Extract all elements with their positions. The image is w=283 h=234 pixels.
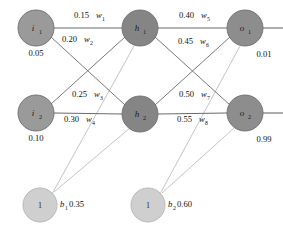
node-o1-label: o [240,23,245,33]
bias-b2-subscript: 2 [173,205,176,211]
node-h2-subscript: 2 [143,114,146,121]
node-o2[interactable] [227,95,263,131]
weight-w8-subscript: 8 [205,120,208,126]
weight-w5-value: 0.40 [179,10,194,20]
node-o1-subscript: 1 [248,28,251,35]
output-tails [263,28,283,113]
node-i2[interactable] [18,95,54,131]
weight-w5-subscript: 5 [207,16,210,22]
bias-b1-value: 0.35 [69,199,84,209]
weight-w2-subscript: 2 [90,40,93,46]
weight-w2-value: 0.20 [62,34,77,44]
bias-b1-subscript: 1 [65,205,68,211]
node-h1-label: h [135,23,140,33]
bias-b2-value: 0.60 [177,199,192,209]
node-i2-value: 0.10 [28,133,43,143]
weight-w1-value: 0.15 [74,10,89,20]
node-i1-subscript: 1 [39,28,42,35]
node-h2-label: h [135,109,140,119]
node-o1[interactable] [227,10,263,46]
network-svg: i 1 0.05 i 2 0.10 h 1 h 2 o 1 0.01 o 2 0 [0,0,283,234]
weight-w3-value: 0.25 [72,89,87,99]
weight-w7-subscript: 7 [207,95,210,101]
node-i1-value: 0.05 [28,48,43,58]
node-h1[interactable] [122,10,158,46]
edge-h2-o2 [158,113,227,114]
node-b2-label: 1 [146,201,150,210]
weight-w6-subscript: 6 [206,42,209,48]
input-layer: i 1 0.05 i 2 0.10 [18,10,54,143]
weight-w7-value: 0.50 [179,89,194,99]
output-layer: o 1 0.01 o 2 0.99 [227,10,272,144]
weight-w3-subscript: 3 [100,95,103,101]
weight-w8-value: 0.55 [177,114,192,124]
neural-network-diagram: i 1 0.05 i 2 0.10 h 1 h 2 o 1 0.01 o 2 0 [0,0,283,234]
node-i2-subscript: 2 [39,113,42,120]
weight-w4-subscript: 4 [92,120,95,126]
node-o2-value: 0.99 [256,134,271,144]
bias-edge-b1-h2 [54,128,130,192]
bias-edge-b2-o2 [162,128,234,193]
node-i1[interactable] [18,10,54,46]
node-h2[interactable] [122,96,158,132]
node-o2-label: o [240,108,245,118]
bias-layer: 1 b 1 0.35 1 b 2 0.60 [23,188,192,222]
weight-w6-value: 0.45 [178,36,193,46]
weight-w4-value: 0.30 [64,114,79,124]
weight-w1-subscript: 1 [102,16,105,22]
hidden-layer: h 1 h 2 [122,10,158,132]
node-o2-subscript: 2 [248,113,251,120]
node-o1-value: 0.01 [256,49,271,59]
node-b1-label: 1 [38,201,42,210]
node-h1-subscript: 1 [143,28,146,35]
